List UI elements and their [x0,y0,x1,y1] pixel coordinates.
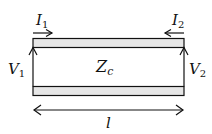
label-length: l [106,114,111,132]
i1-arrow-icon [33,30,52,37]
label-v2: V2 [189,60,206,79]
label-zc: Zc [95,57,113,78]
bottom-conductor [33,87,184,96]
port1-voltage-arrow [29,48,37,87]
top-conductor [33,39,184,48]
port2-voltage-arrow [180,48,188,87]
label-i2: I2 [171,11,184,30]
label-i1: I1 [35,11,48,30]
transmission-line-diagram: I1 I2 V1 V2 Zc l [0,0,212,134]
label-v1: V1 [8,60,25,79]
i2-arrow-icon [165,30,184,37]
